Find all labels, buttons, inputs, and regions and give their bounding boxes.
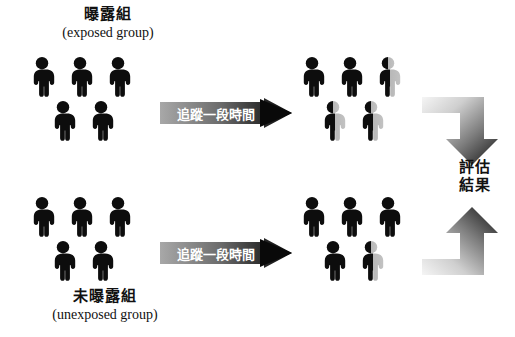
exposed-group-label: 曝露組 (exposed group) (28, 6, 188, 41)
person-figure-solid (29, 56, 55, 97)
follow-up-arrow-top-label: 追蹤一段時間 (164, 98, 268, 128)
follow-up-arrow-top: 追蹤一段時間 (160, 98, 292, 128)
people-row (29, 56, 131, 97)
outcome-arrow-down (420, 95, 500, 167)
person-figure-half-faded (320, 100, 346, 141)
people-row (29, 100, 131, 141)
person-figure-half-faded (375, 56, 401, 97)
exposed-group-label-cn: 曝露組 (28, 6, 188, 24)
outcome-label-line2: 結果 (440, 176, 510, 194)
person-figure-solid (88, 100, 114, 141)
follow-up-arrow-bottom: 追蹤一段時間 (160, 238, 292, 268)
person-figure-solid (105, 56, 131, 97)
exposed-group-label-en: (exposed group) (28, 25, 188, 42)
follow-up-arrow-bottom-label: 追蹤一段時間 (164, 238, 268, 268)
person-figure-solid (67, 196, 93, 237)
unexposed-baseline-people (29, 196, 131, 281)
person-figure-solid (50, 100, 76, 141)
diagram-canvas: 曝露組 (exposed group) (0, 0, 515, 337)
person-figure-solid (337, 56, 363, 97)
unexposed-followup-people (299, 196, 401, 281)
people-row (299, 56, 401, 97)
exposed-followup-people (299, 56, 401, 141)
unexposed-group-label-cn: 未曝露組 (10, 288, 200, 306)
person-figure-solid (88, 240, 114, 281)
people-row (29, 240, 131, 281)
person-figure-solid (67, 56, 93, 97)
people-row (29, 196, 131, 237)
outcome-label-line1: 評估 (440, 158, 510, 176)
person-figure-solid (299, 196, 325, 237)
outcome-label: 評估 結果 (440, 158, 510, 195)
person-figure-half-faded (358, 240, 384, 281)
people-row (299, 100, 401, 141)
person-figure-solid (375, 196, 401, 237)
people-row (299, 196, 401, 237)
person-figure-solid (299, 56, 325, 97)
person-figure-solid (29, 196, 55, 237)
person-figure-half-faded (358, 100, 384, 141)
person-figure-solid (105, 196, 131, 237)
people-row (299, 240, 401, 281)
person-figure-solid (50, 240, 76, 281)
unexposed-group-label-en: (unexposed group) (10, 307, 200, 324)
unexposed-group-label: 未曝露組 (unexposed group) (10, 288, 200, 323)
person-figure-solid (320, 240, 346, 281)
exposed-baseline-people (29, 56, 131, 141)
outcome-arrow-up (420, 205, 500, 277)
person-figure-solid (337, 196, 363, 237)
